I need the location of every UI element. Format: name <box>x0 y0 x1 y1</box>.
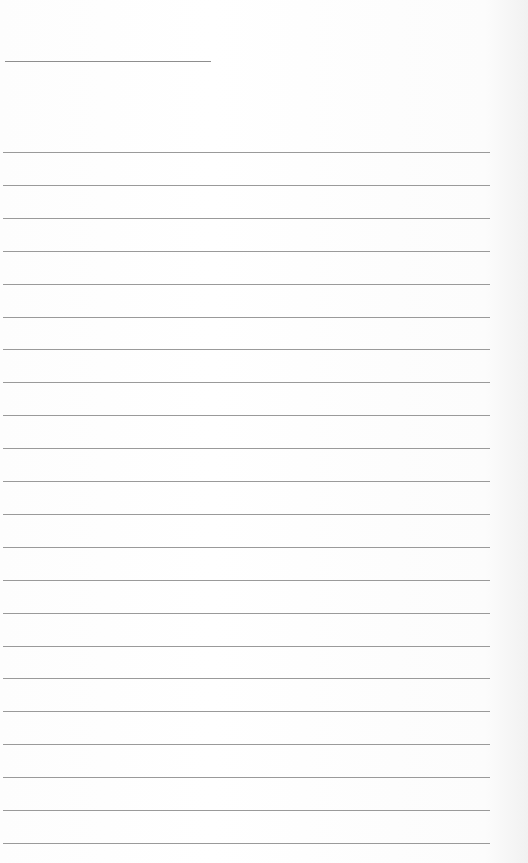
ruled-line <box>3 678 490 679</box>
ruled-line <box>3 514 490 515</box>
ruled-line <box>3 547 490 548</box>
ruled-line <box>3 613 490 614</box>
ruled-line <box>3 152 490 153</box>
ruled-line <box>3 218 490 219</box>
ruled-line <box>3 284 490 285</box>
ruled-line <box>3 481 490 482</box>
ruled-line <box>3 711 490 712</box>
ruled-line <box>3 382 490 383</box>
ruled-line <box>3 777 490 778</box>
ruled-line <box>3 646 490 647</box>
ruled-line <box>3 317 490 318</box>
lined-paper-page <box>0 0 528 863</box>
ruled-line <box>3 843 490 844</box>
ruled-line <box>3 448 490 449</box>
title-underline <box>5 61 211 62</box>
ruled-line <box>3 810 490 811</box>
ruled-line <box>3 251 490 252</box>
ruled-line <box>3 415 490 416</box>
ruled-line <box>3 185 490 186</box>
ruled-line <box>3 580 490 581</box>
ruled-line <box>3 744 490 745</box>
ruled-line <box>3 349 490 350</box>
